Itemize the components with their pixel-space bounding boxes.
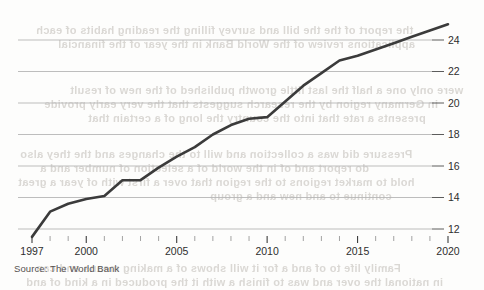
y-tick-label: 14 <box>448 191 460 203</box>
y-tick-label: 12 <box>448 223 460 235</box>
y-tick-label: 16 <box>448 160 460 172</box>
x-tick-label: 2000 <box>75 245 99 257</box>
y-axis-tick-labels: 12141618202224 <box>448 34 460 235</box>
y-tick-label: 24 <box>448 34 460 46</box>
chart-figure: the report of the the bill and survey fi… <box>0 0 484 290</box>
x-tick-label: 2010 <box>255 245 279 257</box>
x-tick-label: 1997 <box>20 245 44 257</box>
y-tick-label: 18 <box>448 128 460 140</box>
x-axis-ticks <box>32 236 448 243</box>
data-series-line <box>32 24 448 237</box>
y-tick-label: 20 <box>448 97 460 109</box>
x-tick-label: 2005 <box>165 245 189 257</box>
x-tick-label: 2015 <box>346 245 370 257</box>
x-axis-tick-labels: 199720002005201020152020 <box>20 245 460 257</box>
source-note: Source: The World Bank <box>14 263 119 274</box>
series-line <box>32 24 448 237</box>
y-tick-label: 22 <box>448 65 460 77</box>
line-chart: 12141618202224 199720002005201020152020 <box>0 0 484 290</box>
x-tick-label: 2020 <box>436 245 460 257</box>
